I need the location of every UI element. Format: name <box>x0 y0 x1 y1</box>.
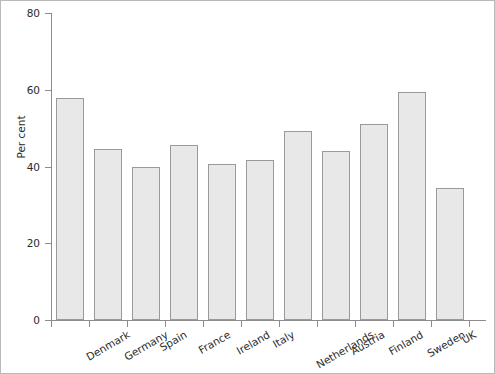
y-axis-line <box>51 13 52 320</box>
x-axis-line <box>51 320 486 321</box>
bar <box>436 188 464 320</box>
y-axis-tick <box>45 167 51 168</box>
bar <box>398 92 426 320</box>
x-axis-tick <box>279 321 280 327</box>
y-axis-tick <box>45 243 51 244</box>
x-axis-tick <box>165 321 166 327</box>
bar <box>284 131 312 320</box>
x-axis-tick <box>469 321 470 327</box>
bar <box>208 164 236 320</box>
x-axis-tick <box>127 321 128 327</box>
bar-chart: Per cent 020406080 DenmarkGermanySpainFr… <box>0 0 495 374</box>
y-axis-tick-label: 80 <box>1 8 40 19</box>
x-axis-tick <box>355 321 356 327</box>
y-axis-tick <box>45 90 51 91</box>
bar <box>94 149 122 320</box>
y-axis-tick-label: 40 <box>1 161 40 172</box>
y-axis-tick <box>45 13 51 14</box>
bar <box>360 124 388 320</box>
x-axis-tick <box>317 321 318 327</box>
bar <box>246 160 274 320</box>
y-axis-tick-label: 60 <box>1 85 40 96</box>
x-axis-tick <box>393 321 394 327</box>
x-axis-label: Italy <box>271 329 296 349</box>
bar <box>56 98 84 320</box>
bar <box>132 167 160 320</box>
x-axis-label: France <box>197 329 232 356</box>
x-axis-tick <box>241 321 242 327</box>
bar <box>170 145 198 320</box>
x-axis-tick <box>51 321 52 327</box>
bar <box>322 151 350 320</box>
y-axis-tick-label: 20 <box>1 238 40 249</box>
x-axis-label: Ireland <box>235 329 272 356</box>
x-axis-label: Finland <box>387 329 425 357</box>
y-axis-tick-label: 0 <box>1 315 40 326</box>
x-axis-tick <box>89 321 90 327</box>
x-axis-tick <box>203 321 204 327</box>
x-axis-tick <box>431 321 432 327</box>
